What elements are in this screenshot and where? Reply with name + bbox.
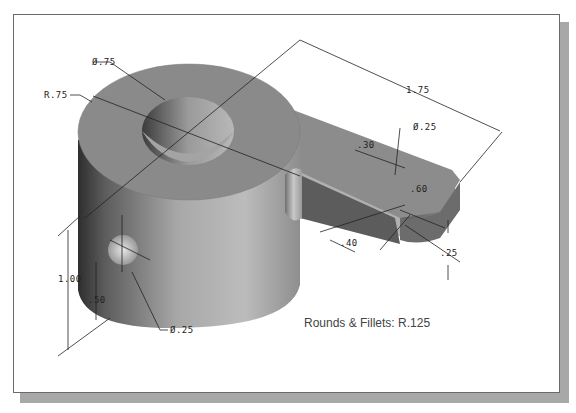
part-drawing: Ø.75 R.75 1.75 Ø.25 .30 .60 .40 .25 1.00… [0,0,576,413]
dim-boss-hole-dia: Ø.75 [92,57,116,67]
dim-arm-hole-dia: Ø.25 [413,122,437,132]
dim-arm-end-offset: .40 [340,238,358,248]
dim-side-hole-dia: Ø.25 [170,325,194,335]
rounds-fillets-note: Rounds & Fillets: R.125 [304,316,430,330]
dim-side-hole-height: .50 [88,295,106,305]
dim-arm-hole-offset: .30 [357,140,375,150]
dim-boss-radius: R.75 [44,90,68,100]
dim-boss-height: 1.00 [58,274,82,284]
dim-arm-width: .60 [410,184,428,194]
dim-arm-thickness: .25 [440,248,458,258]
dim-overall-length: 1.75 [406,85,430,95]
